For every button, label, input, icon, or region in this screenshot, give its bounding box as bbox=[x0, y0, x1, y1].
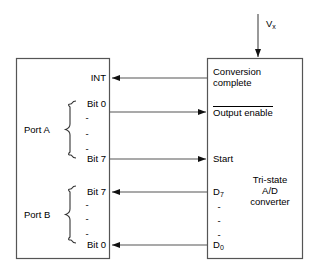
port-a-ellipsis-3: - bbox=[78, 143, 96, 155]
port-a-brace bbox=[66, 101, 77, 158]
data-ellipsis-2: - bbox=[213, 215, 225, 227]
diagram-vector-layer bbox=[0, 0, 315, 275]
data-bit-0-label: D0 bbox=[213, 239, 224, 251]
data-ellipsis-1: - bbox=[213, 201, 225, 213]
data-bit-7-label: D7 bbox=[213, 186, 224, 198]
int-label: INT bbox=[58, 72, 106, 83]
adc-title-line1: Tri-state bbox=[253, 174, 287, 185]
conversion-complete-label: Conversion complete bbox=[213, 66, 261, 88]
port-b-group-label: Port B bbox=[24, 209, 50, 220]
block-diagram: Vx INT Bit 0 Bit 7 - - - Port A Bit 7 Bi… bbox=[0, 0, 315, 275]
output-enable-label: Output enable bbox=[213, 106, 273, 118]
port-b-ellipsis-2: - bbox=[78, 213, 96, 225]
port-a-bit-0-label: Bit 0 bbox=[58, 98, 106, 109]
conversion-complete-line2: complete bbox=[213, 77, 252, 88]
port-b-bit-7-label: Bit 7 bbox=[58, 186, 106, 197]
start-label: Start bbox=[213, 153, 233, 164]
port-a-ellipsis-1: - bbox=[78, 112, 96, 124]
conversion-complete-line1: Conversion bbox=[213, 66, 261, 77]
adc-title-line2: A/D bbox=[262, 185, 278, 196]
port-b-bit-0-label: Bit 0 bbox=[58, 239, 106, 250]
adc-title-label: Tri-state A/D converter bbox=[238, 174, 302, 207]
vx-label: Vx bbox=[266, 18, 276, 30]
adc-title-line3: converter bbox=[250, 196, 290, 207]
port-b-ellipsis-1: - bbox=[78, 199, 96, 211]
port-b-ellipsis-3: - bbox=[78, 228, 96, 240]
port-a-ellipsis-2: - bbox=[78, 128, 96, 140]
port-a-group-label: Port A bbox=[24, 124, 50, 135]
